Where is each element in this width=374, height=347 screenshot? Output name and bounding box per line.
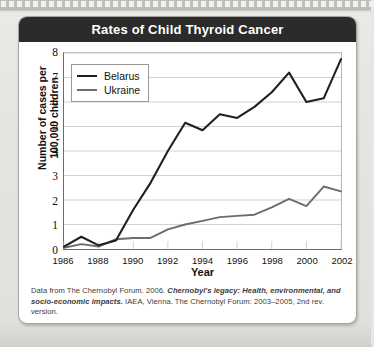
perforation-hole [81,1,86,7]
perforation-hole [233,1,238,7]
y-tick-label: 3 [52,170,58,182]
x-axis-title: Year [63,266,342,278]
perforation-hole [217,1,222,7]
perforation-hole [121,1,126,7]
figure-title: Rates of Child Thyroid Cancer [91,22,283,37]
caption-text-part-1: Data from The Chernobyl Forum. 2006. [31,286,167,295]
perforation-hole [361,1,366,7]
series-line-ukraine [64,187,341,248]
perforation-hole [289,1,294,7]
perforation-hole [17,1,22,7]
perforation-hole [345,1,350,7]
perforation-hole [257,1,262,7]
x-tick-label: 1988 [87,255,108,266]
perforation-hole [25,1,30,7]
perforation-hole [57,1,62,7]
perforation-hole [353,1,358,7]
legend-item-ukraine: Ukraine [77,83,140,97]
x-tick-label: 1998 [262,255,283,266]
perforation-hole [153,1,158,7]
perforation-hole [145,1,150,7]
perforation-hole [201,1,206,7]
perforation-hole [193,1,198,7]
perforation-hole [1,1,6,7]
perforation-hole [129,1,134,7]
x-tick-label: 1990 [122,255,143,266]
x-tick-label: 1992 [157,255,178,266]
perforation-hole [137,1,142,7]
perforation-hole [49,1,54,7]
perforation-hole [241,1,246,7]
perforation-hole [177,1,182,7]
page-edge-shadow [0,9,371,12]
x-tick-label: 2002 [331,255,352,266]
figure-card: Rates of Child Thyroid Cancer Number of … [18,16,357,324]
x-tick-label: 1996 [227,255,248,266]
perforation-hole [305,1,310,7]
perforation-hole [185,1,190,7]
legend-label: Belarus [104,70,140,82]
page-perforation-strip [0,0,371,9]
perforation-hole [73,1,78,7]
legend-line-swatch [77,89,97,91]
y-tick-label: 1 [52,219,58,231]
perforation-hole [41,1,46,7]
y-tick-label: 8 [52,46,58,58]
perforation-hole [273,1,278,7]
perforation-hole [161,1,166,7]
figure-caption: Data from The Chernobyl Forum. 2006. Che… [19,280,356,318]
legend-line-swatch [77,75,97,77]
y-tick-label: 2 [52,195,58,207]
x-tick-label: 1994 [192,255,213,266]
perforation-hole [33,1,38,7]
perforation-hole [265,1,270,7]
legend-item-belarus: Belarus [77,69,140,83]
figure-header-bar: Rates of Child Thyroid Cancer [19,17,356,42]
chart-body: Number of cases per 100,000 children 012… [19,42,356,280]
perforation-hole [209,1,214,7]
perforation-hole [9,1,14,7]
perforation-hole [329,1,334,7]
perforation-hole [297,1,302,7]
perforation-hole [281,1,286,7]
perforation-hole [321,1,326,7]
perforation-hole [249,1,254,7]
y-tick-label: 7 [52,71,58,83]
y-tick-label: 6 [52,96,58,108]
perforation-hole [65,1,70,7]
y-tick-label: 4 [52,145,58,157]
x-tick-label: 2000 [297,255,318,266]
perforation-hole [105,1,110,7]
chart-legend: BelarusUkraine [71,64,149,102]
y-tick-label: 5 [52,120,58,132]
y-axis-title-line-1: Number of cases per [36,33,48,203]
legend-label: Ukraine [104,84,140,96]
perforation-hole [89,1,94,7]
perforation-hole [169,1,174,7]
perforation-hole [113,1,118,7]
perforation-hole [337,1,342,7]
perforation-hole [97,1,102,7]
perforation-hole [313,1,318,7]
perforation-hole [369,1,374,7]
perforation-hole [225,1,230,7]
x-tick-label: 1986 [52,255,73,266]
page-bottom-shading [0,322,371,347]
